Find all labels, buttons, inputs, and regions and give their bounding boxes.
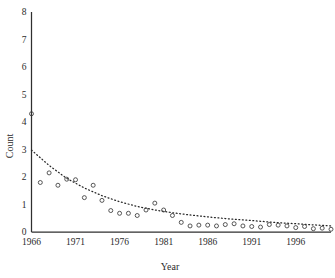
data-point <box>250 225 254 229</box>
y-tick-label: 2 <box>22 172 27 182</box>
data-point <box>153 201 157 205</box>
x-tick-label: 1996 <box>286 237 305 247</box>
data-point <box>197 223 201 227</box>
x-tick-label: 1986 <box>198 237 217 247</box>
y-tick-labels: 012345678 <box>22 7 27 237</box>
y-tick-label: 3 <box>22 145 27 155</box>
data-point <box>38 181 42 185</box>
y-tick-label: 4 <box>22 117 27 127</box>
data-point <box>188 224 192 228</box>
y-axis-title: Count <box>4 134 15 159</box>
data-point <box>311 227 315 231</box>
trend-line <box>32 150 332 226</box>
data-point <box>329 227 333 231</box>
x-tick-labels: 1966197119761981198619911996 <box>22 237 306 247</box>
data-point <box>320 226 324 230</box>
data-point <box>232 222 236 226</box>
y-tick-label: 6 <box>22 62 27 72</box>
data-point <box>47 171 51 175</box>
y-tick-label: 1 <box>22 200 27 210</box>
data-point <box>56 183 60 187</box>
data-point <box>179 220 183 224</box>
data-point <box>109 209 113 213</box>
x-tick-label: 1971 <box>66 237 85 247</box>
data-point <box>74 178 78 182</box>
data-point <box>276 223 280 227</box>
data-point <box>126 211 130 215</box>
data-point <box>303 225 307 229</box>
data-point <box>135 214 139 218</box>
y-tick-label: 5 <box>22 90 27 100</box>
data-point <box>214 224 218 228</box>
chart-figure: Count Year 012345678 1966197119761981198… <box>0 0 335 278</box>
data-point <box>267 223 271 227</box>
data-point <box>259 225 263 229</box>
scatter-plot: Count Year 012345678 1966197119761981198… <box>0 0 335 278</box>
x-axis-title: Year <box>161 261 180 272</box>
x-tick-label: 1966 <box>22 237 41 247</box>
data-point <box>285 224 289 228</box>
data-point <box>206 223 210 227</box>
data-point <box>118 211 122 215</box>
x-tick-label: 1976 <box>110 237 129 247</box>
data-point <box>82 196 86 200</box>
x-tick-label: 1991 <box>242 237 261 247</box>
data-point <box>241 224 245 228</box>
y-tick-label: 8 <box>22 7 27 17</box>
data-point <box>294 226 298 230</box>
data-point <box>223 223 227 227</box>
data-point <box>100 198 104 202</box>
data-point <box>170 214 174 218</box>
data-points <box>30 112 334 232</box>
y-tick-label: 7 <box>22 35 27 45</box>
x-tick-label: 1981 <box>154 237 173 247</box>
data-point <box>91 183 95 187</box>
